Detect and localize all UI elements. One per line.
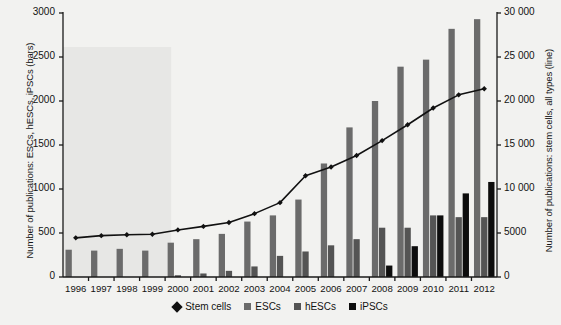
bar-escs-2003 — [244, 222, 250, 277]
x-tick-label-1996: 1996 — [63, 283, 89, 294]
y-tick-label-left: 0 — [0, 270, 55, 281]
y-tick-label-left: 3000 — [0, 6, 55, 17]
bar-escs-2002 — [219, 234, 225, 277]
line-marker-2001 — [201, 224, 206, 229]
line-marker-2002 — [226, 220, 231, 225]
bar-escs-2005 — [295, 200, 301, 277]
square-swatch-icon — [244, 303, 251, 310]
line-marker-2003 — [252, 211, 257, 216]
background-shade — [63, 47, 171, 277]
x-tick-label-2005: 2005 — [293, 283, 319, 294]
y-tick-label-right: 0 — [504, 270, 510, 281]
x-tick-label-2011: 2011 — [446, 283, 472, 294]
bar-escs-2012 — [474, 19, 480, 277]
x-tick-label-2006: 2006 — [318, 283, 344, 294]
bar-hescs-2006 — [328, 245, 334, 277]
x-tick-label-1999: 1999 — [140, 283, 166, 294]
y-tick-label-right: 5000 — [504, 226, 526, 237]
y-tick-label-left: 1500 — [0, 138, 55, 149]
bar-hescs-2009 — [405, 228, 411, 277]
x-tick-label-1998: 1998 — [114, 283, 140, 294]
legend-item-escs[interactable]: ESCs — [244, 301, 281, 312]
y-tick-label-right: 10 000 — [504, 182, 535, 193]
bar-escs-2004 — [270, 215, 276, 277]
chart-legend: Stem cellsESCshESCsiPSCs — [0, 301, 561, 312]
bar-escs-2001 — [193, 239, 199, 277]
bar-escs-1999 — [142, 251, 148, 277]
legend-label: iPSCs — [360, 301, 388, 312]
legend-label: Stem cells — [185, 301, 231, 312]
diamond-marker-icon — [172, 301, 183, 312]
y-tick-label-right: 15 000 — [504, 138, 535, 149]
x-tick-label-2008: 2008 — [369, 283, 395, 294]
y-tick-label-left: 500 — [0, 226, 55, 237]
x-tick-label-2001: 2001 — [191, 283, 217, 294]
bar-ipscs-2011 — [463, 193, 469, 277]
chart-figure: Number of publications: ESCs, hESCs, iPS… — [0, 0, 561, 325]
bar-ipscs-2008 — [386, 266, 392, 277]
bar-hescs-2012 — [481, 217, 487, 277]
x-tick-label-2003: 2003 — [242, 283, 268, 294]
bar-ipscs-2009 — [412, 246, 418, 277]
bar-hescs-2008 — [379, 228, 385, 277]
x-tick-label-2000: 2000 — [165, 283, 191, 294]
plot-area — [0, 0, 561, 325]
bar-escs-2008 — [372, 101, 378, 277]
bar-escs-2007 — [346, 127, 352, 277]
bar-hescs-2010 — [430, 215, 436, 277]
line-marker-2006 — [328, 164, 333, 169]
bar-hescs-2002 — [226, 271, 232, 277]
bar-ipscs-2012 — [488, 182, 494, 277]
bar-escs-1996 — [66, 250, 72, 277]
x-tick-label-2009: 2009 — [395, 283, 421, 294]
x-tick-label-2004: 2004 — [267, 283, 293, 294]
bar-hescs-2005 — [302, 251, 308, 277]
y-tick-label-right: 25 000 — [504, 50, 535, 61]
x-tick-label-2007: 2007 — [344, 283, 370, 294]
bar-escs-1997 — [91, 251, 97, 277]
bar-hescs-2004 — [277, 256, 283, 277]
bar-ipscs-2010 — [437, 215, 443, 277]
bar-escs-2009 — [397, 67, 403, 277]
x-tick-label-2002: 2002 — [216, 283, 242, 294]
bar-escs-2011 — [448, 29, 454, 277]
bar-escs-2006 — [321, 163, 327, 277]
x-tick-label-2012: 2012 — [471, 283, 497, 294]
y-tick-label-left: 1000 — [0, 182, 55, 193]
x-tick-label-2010: 2010 — [420, 283, 446, 294]
y-tick-label-right: 20 000 — [504, 94, 535, 105]
bar-escs-1998 — [117, 249, 123, 277]
square-swatch-icon — [349, 303, 356, 310]
bar-hescs-2011 — [456, 217, 462, 277]
x-tick-label-1997: 1997 — [89, 283, 115, 294]
y-tick-label-left: 2000 — [0, 94, 55, 105]
bar-hescs-2007 — [353, 239, 359, 277]
y-tick-label-left: 2500 — [0, 50, 55, 61]
bar-hescs-2003 — [251, 266, 257, 277]
legend-item-ipscs[interactable]: iPSCs — [349, 301, 388, 312]
legend-item-hescs[interactable]: hESCs — [294, 301, 336, 312]
legend-label: hESCs — [305, 301, 336, 312]
line-marker-2012 — [482, 86, 487, 91]
legend-item-stem-cells[interactable]: Stem cells — [173, 301, 231, 312]
legend-label: ESCs — [255, 301, 281, 312]
line-marker-2011 — [456, 92, 461, 97]
y-tick-label-right: 30 000 — [504, 6, 535, 17]
line-marker-2000 — [175, 227, 180, 232]
bar-escs-2010 — [423, 60, 429, 277]
bar-escs-2000 — [168, 243, 174, 277]
square-swatch-icon — [294, 303, 301, 310]
